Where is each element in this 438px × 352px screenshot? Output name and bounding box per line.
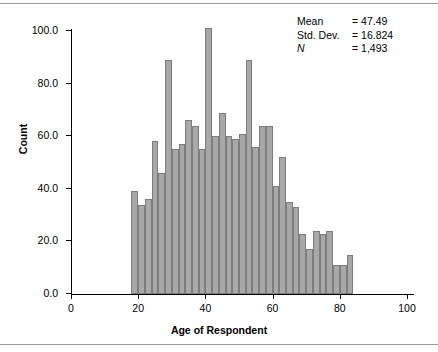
- histogram-bar: [145, 199, 152, 294]
- stats-row-n: N = 1,493: [297, 42, 393, 56]
- y-tick-label-3: 60.0: [38, 129, 58, 141]
- histogram-bar: [185, 120, 192, 294]
- stats-value-mean: = 47.49: [352, 15, 387, 29]
- histogram-bar: [273, 186, 280, 294]
- x-tick-label-2: 40: [200, 302, 212, 314]
- histogram-bar: [219, 113, 226, 294]
- histogram-bar: [299, 234, 306, 294]
- histogram-bar: [279, 157, 286, 294]
- stats-label-n: N: [297, 42, 352, 56]
- histogram-bar: [252, 147, 259, 294]
- statistics-box: Mean = 47.49 Std. Dev. = 16.824 N = 1,49…: [297, 15, 393, 56]
- histogram-bar: [179, 144, 186, 294]
- histogram-bar: [172, 149, 179, 294]
- y-tick-label-1: 20.0: [38, 234, 58, 246]
- histogram-bar: [326, 231, 333, 294]
- histogram-figure: Count Age of Respondent 0.020.040.060.08…: [0, 0, 438, 352]
- plot-area: 0.020.040.060.080.0100.0 020406080100: [71, 31, 407, 294]
- x-tick-label-4: 80: [334, 302, 346, 314]
- y-tick-label-0: 0.0: [43, 287, 58, 299]
- histogram-bar: [266, 126, 273, 294]
- histogram-bar: [158, 173, 165, 294]
- histogram-bar: [293, 207, 300, 294]
- histogram-bar: [226, 136, 233, 294]
- histogram-bar: [199, 149, 206, 294]
- x-tick-label-1: 20: [132, 302, 144, 314]
- histogram-bar: [306, 249, 313, 294]
- y-tick-3: 60.0: [66, 135, 71, 136]
- y-axis-title: Count: [17, 124, 29, 154]
- histogram-bar: [286, 202, 293, 294]
- histogram-bar: [340, 265, 347, 294]
- y-tick-2: 40.0: [66, 188, 71, 189]
- x-axis-line: [71, 294, 414, 295]
- x-tick-label-0: 0: [68, 302, 74, 314]
- stats-label-std-dev: Std. Dev.: [297, 29, 352, 43]
- x-tick-4: 80: [340, 294, 341, 299]
- y-tick-label-5: 100.0: [32, 24, 58, 36]
- histogram-bar: [131, 191, 138, 294]
- x-tick-label-5: 100: [398, 302, 416, 314]
- stats-value-n: = 1,493: [352, 42, 387, 56]
- histogram-bar: [152, 141, 159, 294]
- bottom-divider-rule: [0, 344, 438, 345]
- stats-label-mean: Mean: [297, 15, 352, 29]
- x-tick-0: 0: [71, 294, 72, 299]
- x-tick-3: 60: [273, 294, 274, 299]
- y-tick-label-2: 40.0: [38, 182, 58, 194]
- x-tick-2: 40: [205, 294, 206, 299]
- histogram-bar: [333, 265, 340, 294]
- stats-row-std-dev: Std. Dev. = 16.824: [297, 29, 393, 43]
- histogram-bar: [239, 134, 246, 294]
- stats-value-std-dev: = 16.824: [352, 29, 393, 43]
- top-divider-rule: [0, 3, 438, 4]
- x-tick-5: 100: [407, 294, 408, 299]
- histogram-bar: [320, 234, 327, 294]
- histogram-bar: [138, 205, 145, 294]
- x-tick-label-3: 60: [267, 302, 279, 314]
- histogram-bar: [205, 28, 212, 294]
- x-tick-1: 20: [138, 294, 139, 299]
- x-axis-title: Age of Respondent: [0, 324, 438, 336]
- y-tick-4: 80.0: [66, 83, 71, 84]
- histogram-bar: [192, 126, 199, 294]
- y-tick-5: 100.0: [66, 30, 71, 31]
- histogram-bar: [259, 126, 266, 294]
- histogram-bar: [347, 255, 354, 294]
- histogram-bar: [212, 136, 219, 294]
- histogram-bar: [246, 60, 253, 294]
- stats-row-mean: Mean = 47.49: [297, 15, 393, 29]
- histogram-bar: [165, 60, 172, 294]
- y-tick-label-4: 80.0: [38, 77, 58, 89]
- histogram-bar: [232, 139, 239, 294]
- y-tick-1: 20.0: [66, 240, 71, 241]
- histogram-bar: [313, 231, 320, 294]
